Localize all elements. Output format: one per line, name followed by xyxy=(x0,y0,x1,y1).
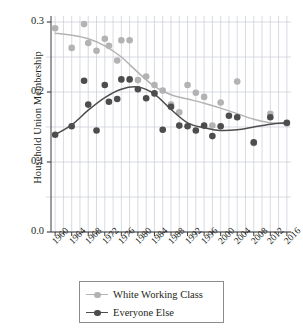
data-point xyxy=(114,57,121,64)
data-point xyxy=(135,77,142,84)
data-point xyxy=(52,25,59,32)
data-point xyxy=(217,99,224,106)
data-point xyxy=(151,90,158,97)
data-point xyxy=(93,127,100,134)
data-point xyxy=(201,94,208,101)
legend-label: Everyone Else xyxy=(113,307,174,318)
data-point xyxy=(106,43,113,50)
legend-item: White Working Class xyxy=(86,286,203,303)
data-point xyxy=(234,114,241,121)
legend-swatch-icon xyxy=(86,312,108,313)
chart-figure: Household Union Membership 0.00.10.20.3 … xyxy=(0,0,303,335)
data-point xyxy=(106,99,113,106)
data-point xyxy=(284,120,291,127)
data-point xyxy=(176,122,183,129)
y-axis-title: Household Union Membership xyxy=(32,18,43,218)
data-point xyxy=(118,76,125,83)
data-point xyxy=(217,123,224,130)
data-point xyxy=(101,82,108,89)
chart-legend: White Working ClassEveryone Else xyxy=(79,281,224,323)
data-point xyxy=(101,36,108,43)
data-point xyxy=(209,122,216,129)
data-point xyxy=(193,127,200,134)
y-tick-label: 0.3 xyxy=(31,15,44,26)
data-point xyxy=(126,37,133,44)
data-point xyxy=(126,76,133,83)
data-point xyxy=(201,122,208,129)
data-point xyxy=(168,103,175,110)
data-point xyxy=(81,78,88,85)
data-point xyxy=(114,96,121,103)
data-point xyxy=(151,82,158,89)
data-point xyxy=(135,86,142,93)
data-point xyxy=(81,21,88,28)
data-point xyxy=(234,78,241,85)
data-point xyxy=(226,113,233,120)
legend-marker-icon xyxy=(94,310,101,317)
data-point xyxy=(184,82,191,89)
y-tick-label: 0.1 xyxy=(31,155,44,166)
data-point xyxy=(159,87,166,94)
data-point xyxy=(209,133,216,140)
data-point xyxy=(143,73,150,80)
data-point xyxy=(250,139,257,146)
data-point xyxy=(68,45,75,52)
data-point xyxy=(118,37,125,44)
data-point xyxy=(143,95,150,102)
data-point xyxy=(85,101,92,108)
data-point xyxy=(193,89,200,96)
data-point xyxy=(85,40,92,47)
data-point xyxy=(52,131,59,138)
data-point xyxy=(267,114,274,121)
y-tick-label: 0.0 xyxy=(31,225,44,236)
legend-item: Everyone Else xyxy=(86,304,174,321)
data-point xyxy=(159,127,166,134)
data-point xyxy=(93,47,100,54)
legend-marker-icon xyxy=(94,292,101,299)
data-point xyxy=(68,123,75,130)
y-tick-label: 0.2 xyxy=(31,85,44,96)
legend-swatch-icon xyxy=(86,294,108,295)
data-point xyxy=(184,123,191,130)
legend-label: White Working Class xyxy=(113,289,203,300)
